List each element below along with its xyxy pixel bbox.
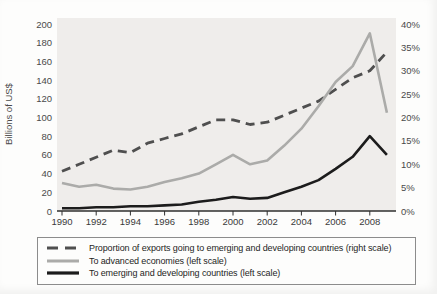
left-axis-tick-label: 60 [41,149,52,160]
chart-figure: 0204060801001201401601802000%5%10%15%20%… [0,0,437,294]
left-axis-tick-label: 200 [36,19,52,30]
x-axis-tick-label: 2002 [257,216,278,227]
right-axis-tick-label: 20% [401,112,421,123]
x-axis-tick-label: 2000 [222,216,243,227]
x-axis-tick-label: 2006 [325,216,346,227]
right-axis-tick-label: 25% [401,89,421,100]
left-axis-tick-label: 180 [36,37,52,48]
right-axis-tick-label: 10% [401,159,421,170]
x-axis-tick-label: 2008 [359,216,380,227]
x-axis-tick-label: 1998 [188,216,209,227]
right-axis-tick-label: 30% [401,65,421,76]
line-chart: 0204060801001201401601802000%5%10%15%20%… [0,0,437,232]
x-axis-tick-label: 1996 [154,216,175,227]
left-axis-tick-label: 140 [36,75,52,86]
left-axis-tick-label: 20 [41,187,52,198]
x-axis-tick-label: 1994 [120,216,141,227]
plot-area [57,18,396,211]
legend: Proportion of exports going to emerging … [37,237,416,285]
legend-item-emerging: To emerging and developing countries (le… [46,267,410,279]
x-axis-tick-label: 2004 [291,216,312,227]
right-axis-tick-label: 15% [401,135,421,146]
left-axis-tick-label: 0 [47,206,52,217]
right-axis-tick-label: 35% [401,42,421,53]
legend-label-advanced: To advanced economies (left scale) [89,255,227,267]
left-axis-tick-label: 120 [36,93,52,104]
legend-label-proportion: Proportion of exports going to emerging … [89,242,391,254]
left-axis-tick-label: 40 [41,168,52,179]
right-axis-tick-label: 5% [401,182,415,193]
gray-line-swatch-icon [46,258,80,264]
legend-item-advanced: To advanced economies (left scale) [46,255,410,267]
left-axis-tick-label: 80 [41,131,52,142]
left-axis-tick-label: 160 [36,56,52,67]
x-axis-tick-label: 1990 [51,216,72,227]
legend-item-proportion: Proportion of exports going to emerging … [46,242,410,254]
right-axis-tick-label: 40% [401,19,421,30]
right-axis-tick-label: 0% [401,206,415,217]
dashed-line-swatch-icon [46,245,80,251]
legend-label-emerging: To emerging and developing countries (le… [89,267,280,279]
left-axis-tick-label: 100 [36,112,52,123]
left-axis-title: Billions of US$ [3,82,14,144]
black-line-swatch-icon [46,270,80,276]
x-axis-tick-label: 1992 [86,216,107,227]
